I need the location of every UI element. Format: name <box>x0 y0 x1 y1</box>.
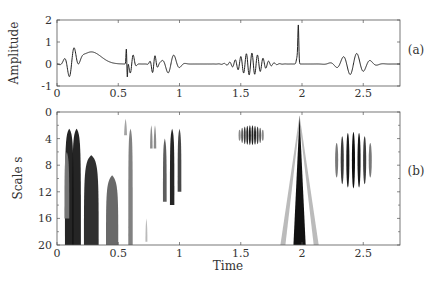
scalogram-stripe <box>346 133 349 188</box>
amplitude-plot: 00.511.522.5210-1 Amplitude (a) <box>7 14 424 100</box>
plot-a-ticks: 00.511.522.5210-1 <box>41 14 400 100</box>
figure: 00.511.522.5210-1 Amplitude (a) 00.511.5… <box>0 0 445 284</box>
y-tick-label-a: 2 <box>45 14 52 27</box>
x-tick-label-a: 2 <box>299 87 306 100</box>
scalogram-ridge <box>170 129 174 205</box>
scalogram-ridge <box>64 152 69 219</box>
y-tick-label-a: -1 <box>41 80 52 93</box>
scalogram-ridge <box>72 129 81 245</box>
plot-a-frame <box>57 20 400 86</box>
scalogram-ridge <box>124 119 127 136</box>
scalogram-ridge <box>163 139 167 202</box>
scalogram-stripe <box>251 125 253 145</box>
scalogram-stripe <box>363 136 366 184</box>
scalogram-stripe <box>352 132 355 189</box>
scalogram-ridge <box>154 125 156 148</box>
panel-label-b: (b) <box>407 164 424 178</box>
y-axis-label-a: Amplitude <box>7 22 21 86</box>
x-tick-label-b: 0 <box>54 247 61 260</box>
scalogram-stripe <box>262 130 264 141</box>
scalogram-stripe <box>254 126 256 145</box>
panel-label-a: (a) <box>408 43 425 57</box>
scalogram-ridge <box>150 125 152 148</box>
scalogram-stripe <box>239 130 241 141</box>
scalogram-ridge <box>145 218 147 241</box>
x-tick-label-a: 1.5 <box>232 87 250 100</box>
scalogram-ridge <box>84 155 99 245</box>
scalogram-stripe <box>335 143 338 178</box>
x-tick-label-a: 0.5 <box>110 87 128 100</box>
scalogram-stripe <box>244 126 246 144</box>
cone-center <box>293 115 305 245</box>
y-tick-label-b: 12 <box>38 186 52 199</box>
scalogram-stripe <box>246 126 248 145</box>
x-tick-label-b: 2.5 <box>355 247 373 260</box>
y-tick-label-a: 0 <box>45 58 52 71</box>
y-tick-label-b: 4 <box>45 133 52 146</box>
scalogram-image <box>64 115 371 245</box>
x-tick-label-b: 0.5 <box>110 247 128 260</box>
y-axis-label-b: Scale s <box>11 156 25 199</box>
scalogram-stripe <box>249 125 251 145</box>
y-tick-label-b: 20 <box>38 239 52 252</box>
x-tick-label-b: 2 <box>299 247 306 260</box>
scalogram-stripe <box>358 133 361 188</box>
signal-line <box>57 25 400 77</box>
scalogram-ridge <box>128 129 132 245</box>
scalogram-ridge <box>106 175 118 245</box>
y-tick-label-b: 16 <box>38 212 52 225</box>
scalogram-stripe <box>369 143 372 178</box>
x-tick-label-a: 0 <box>54 87 61 100</box>
x-tick-label-b: 1 <box>176 247 183 260</box>
y-tick-label-a: 1 <box>45 36 52 49</box>
y-tick-label-b: 8 <box>45 159 52 172</box>
x-axis-label-b: Time <box>213 259 243 273</box>
scalogram-stripe <box>241 128 243 143</box>
x-tick-label-a: 2.5 <box>355 87 373 100</box>
scalogram-plot: 00.511.522.5048121620 Scale s Time (b) <box>11 106 425 273</box>
scalogram-stripe <box>257 126 259 144</box>
scalogram-ridge <box>178 129 182 192</box>
scalogram-stripe <box>259 128 261 143</box>
scalogram-stripe <box>341 136 344 184</box>
x-tick-label-a: 1 <box>176 87 183 100</box>
y-tick-label-b: 0 <box>45 106 52 119</box>
